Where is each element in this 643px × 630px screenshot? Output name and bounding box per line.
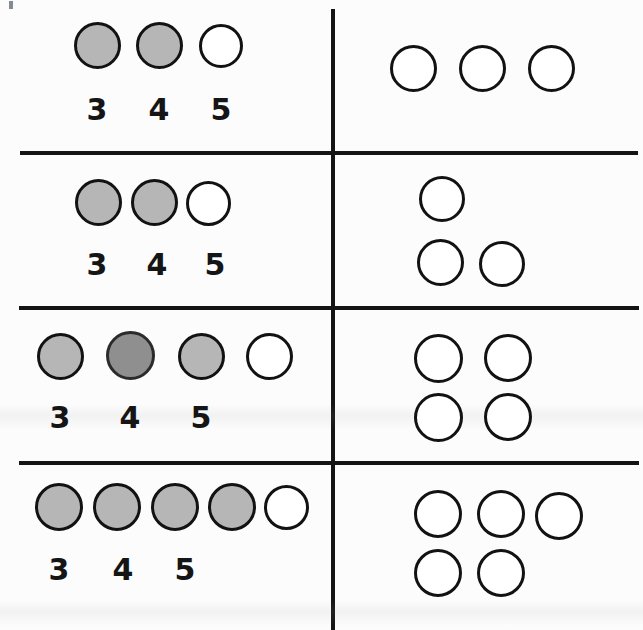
row-4-left-circle-3: [151, 483, 199, 531]
row-2-numeral-1: 3: [82, 250, 112, 280]
row-3-right-circle-4: [484, 393, 532, 441]
worksheet-sheet: 3 4 5 3 4 5 3: [0, 0, 643, 630]
row-2-right-circle-1: [419, 176, 465, 222]
row-1-left-circle-2: [136, 22, 183, 69]
row-1-left-cell: 3 4 5: [0, 0, 332, 151]
row-1-right-circle-2: [459, 45, 506, 92]
row-4-right-cell: [332, 465, 643, 630]
row-2-right-circle-3: [479, 241, 525, 287]
row-4-right-circle-3: [535, 492, 583, 540]
row-4-left-circle-5: [264, 485, 309, 530]
row-3-right-circle-1: [414, 334, 463, 383]
row-2-left-cell: 3 4 5: [0, 155, 332, 306]
row-4-right-circle-1: [414, 490, 462, 538]
row-3-numeral-1: 3: [45, 403, 75, 433]
row-3-numeral-3: 5: [186, 403, 216, 433]
row-1-right-circle-3: [528, 45, 575, 92]
row-4-numeral-1: 3: [44, 555, 74, 585]
problem-row-4: 3 4 5: [0, 465, 643, 630]
row-4-left-circle-1: [35, 483, 83, 531]
row-1-numeral-3: 5: [206, 95, 236, 125]
row-4-right-circle-2: [477, 490, 525, 538]
row-2-left-circle-2: [131, 179, 178, 226]
row-2-numeral-3: 5: [200, 250, 230, 280]
row-4-right-circle-5: [477, 549, 525, 597]
row-1-left-circle-1: [74, 22, 121, 69]
row-4-numeral-2: 4: [108, 555, 138, 585]
row-3-left-cell: 3 4 5: [0, 310, 332, 461]
row-4-left-circle-2: [93, 483, 141, 531]
row-3-left-circle-2: [106, 331, 155, 380]
row-3-right-cell: [332, 310, 643, 461]
row-2-left-circle-3: [186, 181, 231, 226]
row-3-right-circle-2: [484, 334, 532, 382]
row-2-left-circle-1: [75, 179, 122, 226]
row-2-right-cell: [332, 155, 643, 306]
row-1-numeral-2: 4: [144, 95, 174, 125]
row-3-left-circle-1: [37, 333, 84, 380]
row-1-left-circle-3: [199, 24, 243, 68]
row-3-numeral-2: 4: [115, 403, 145, 433]
row-2-numeral-2: 4: [142, 250, 172, 280]
row-1-numeral-1: 3: [82, 95, 112, 125]
row-4-left-cell: 3 4 5: [0, 465, 332, 630]
problem-row-3: 3 4 5: [0, 310, 643, 461]
row-4-numeral-3: 5: [170, 555, 200, 585]
row-4-left-circle-4: [208, 483, 256, 531]
row-3-left-circle-4: [246, 333, 293, 380]
problem-row-2: 3 4 5: [0, 155, 643, 306]
row-3-right-circle-3: [414, 393, 463, 442]
row-3-left-circle-3: [178, 333, 225, 380]
row-1-right-circle-1: [390, 45, 437, 92]
row-2-right-circle-2: [417, 239, 464, 286]
row-1-right-cell: [332, 0, 643, 151]
problem-row-1: 3 4 5: [0, 0, 643, 151]
row-4-right-circle-4: [414, 549, 462, 597]
